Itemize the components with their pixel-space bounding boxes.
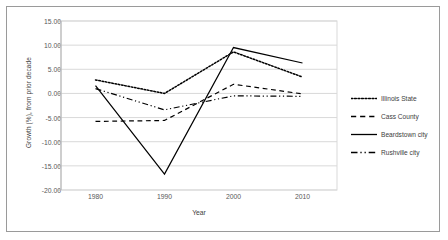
legend-item[interactable]: Beardstown city [351,125,443,143]
legend-label: Illinois State [381,95,417,102]
legend-item[interactable]: Illinois State [351,89,443,107]
legend-item[interactable]: Cass County [351,107,443,125]
x-tick-label: 2000 [204,193,264,200]
legend-line-swatch [351,94,377,103]
series-line [96,52,303,94]
chart-legend: Illinois StateCass CountyBeardstown city… [351,89,443,161]
series-line [96,89,303,110]
x-tick-label: 1980 [66,193,126,200]
legend-label: Rushville city [381,149,419,156]
legend-label: Cass County [381,113,419,120]
legend-item[interactable]: Rushville city [351,143,443,161]
x-axis-title: Year [65,209,333,216]
legend-line-swatch [351,112,377,121]
legend-line-swatch [351,130,377,139]
series-line [96,48,303,175]
x-tick-label: 2010 [273,193,333,200]
x-tick-label: 1990 [135,193,195,200]
chart-area: Growth (%), from prior decade 15.0010.00… [7,7,441,233]
legend-label: Beardstown city [381,131,428,138]
legend-line-swatch [351,148,377,157]
chart-frame: Growth (%), from prior decade 15.0010.00… [6,6,440,232]
